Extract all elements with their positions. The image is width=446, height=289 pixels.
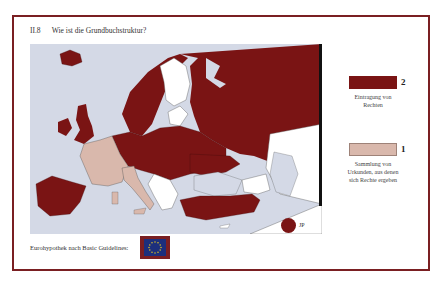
region-turkey	[180, 194, 260, 220]
legend-label-2: Eintragung von Rechten	[333, 93, 413, 109]
region-ireland	[58, 118, 72, 136]
japan-marker-icon	[281, 218, 296, 233]
region-finland	[160, 58, 190, 106]
europe-map	[30, 44, 322, 234]
map-svg	[30, 44, 322, 234]
eu-flag-icon	[140, 236, 170, 259]
legend-swatch-category-1	[349, 143, 397, 156]
section-number: II.8	[30, 26, 50, 35]
region-iberia	[36, 176, 86, 216]
title-text: Wie ist die Grundbuchstruktur?	[52, 26, 146, 35]
region-iceland	[60, 50, 82, 66]
map-edge-bar	[319, 44, 322, 206]
legend-value-1: 1	[401, 144, 406, 154]
page-title: II.8 Wie ist die Grundbuchstruktur?	[30, 26, 146, 35]
legend-swatch-category-2	[349, 76, 397, 89]
eurohypothek-label: Eurohypothek nach Basic Guidelines:	[30, 244, 128, 251]
japan-marker-label: JP	[299, 222, 305, 228]
region-gb	[74, 104, 94, 144]
legend-value-2: 2	[401, 77, 406, 87]
legend-label-1: Sammlung von Urkunden, aus denen sich Re…	[333, 160, 413, 184]
